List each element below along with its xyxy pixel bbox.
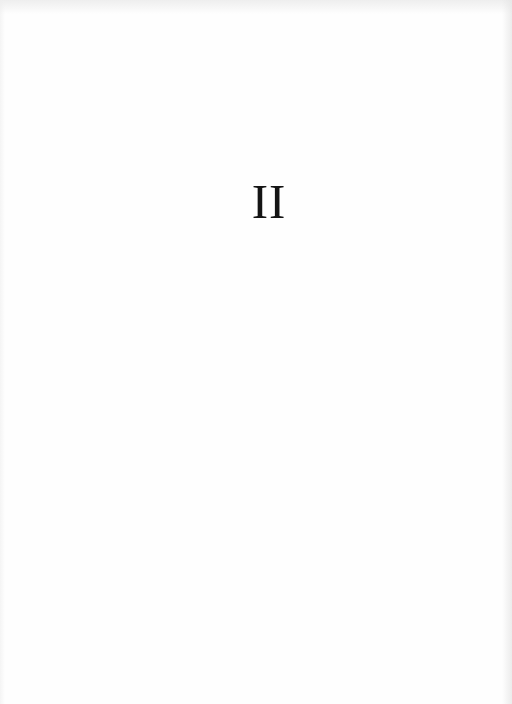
scan-edge-shading-top [0,0,512,14]
part-number-heading: II [0,172,512,232]
scan-edge-shading-left [0,0,5,704]
document-page: II [0,0,512,704]
scan-edge-shading-right [502,0,512,704]
